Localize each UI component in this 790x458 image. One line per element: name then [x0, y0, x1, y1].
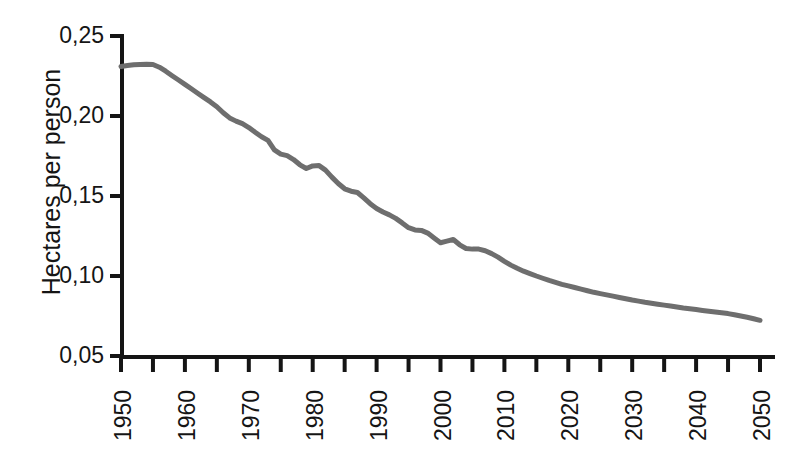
- x-tick-label: 2010: [495, 390, 518, 441]
- x-axis-ticks: [121, 357, 760, 372]
- y-tick-label: 0,15: [59, 184, 104, 207]
- y-tick-label: 0,10: [59, 264, 104, 287]
- x-tick-label: 2020: [559, 390, 582, 441]
- x-tick-label: 2000: [432, 390, 455, 441]
- y-tick-label: 0,25: [59, 24, 104, 47]
- x-tick-label: 1960: [176, 390, 199, 441]
- x-tick-label: 2040: [687, 390, 710, 441]
- x-tick-label: 1950: [112, 390, 135, 441]
- chart-figure: Hectares per person 0,250,200,150,100,05…: [0, 0, 790, 458]
- x-tick-label: 1980: [304, 390, 327, 441]
- data-series-line: [121, 64, 760, 320]
- y-tick-label: 0,05: [59, 344, 104, 367]
- x-tick-label: 1970: [240, 390, 263, 441]
- y-tick-label: 0,20: [59, 104, 104, 127]
- x-tick-label: 1990: [368, 390, 391, 441]
- x-tick-label: 2050: [751, 390, 774, 441]
- x-tick-label: 2030: [623, 390, 646, 441]
